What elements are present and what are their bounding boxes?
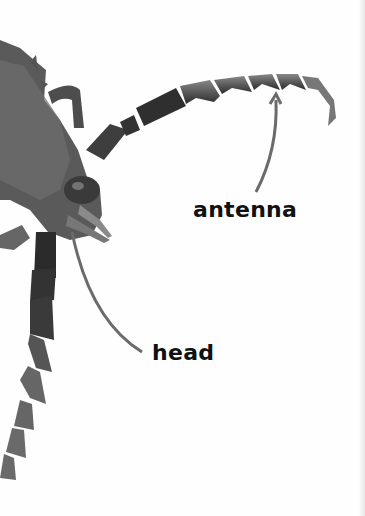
page-edge-shadow bbox=[359, 0, 365, 516]
antenna-right bbox=[86, 74, 336, 160]
beetle-illustration bbox=[0, 0, 365, 516]
head-label: head bbox=[152, 340, 214, 365]
antenna-left bbox=[0, 232, 56, 480]
head-pointer-line bbox=[72, 232, 142, 352]
photo-figure: antenna head bbox=[0, 0, 365, 516]
antenna-label: antenna bbox=[193, 197, 297, 222]
antenna-pointer-line bbox=[256, 100, 276, 192]
